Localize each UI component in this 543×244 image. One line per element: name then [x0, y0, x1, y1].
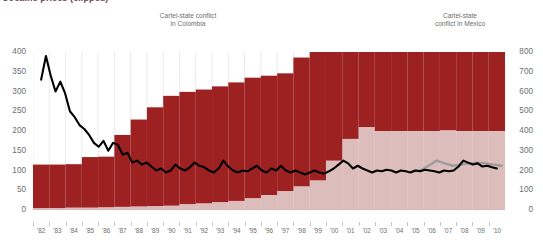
- y-axis-left-tick-label: 250: [0, 107, 26, 115]
- bar-lower-band: [228, 201, 244, 210]
- x-tick-mark: [179, 222, 180, 226]
- bar-upper-band: [391, 52, 407, 131]
- bar-lower-band: [472, 131, 488, 210]
- bar-upper-band: [472, 52, 488, 131]
- bar-lower-band: [310, 180, 326, 210]
- x-tick-mark: [131, 222, 132, 226]
- bar-upper-band: [359, 52, 375, 127]
- x-tick-mark: [66, 222, 67, 226]
- bar-upper-band: [326, 52, 342, 161]
- plot-area: [33, 52, 505, 210]
- bar-lower-band: [82, 208, 98, 210]
- bar-upper-band: [261, 76, 277, 195]
- y-axis-right-tick-label: 0: [507, 206, 533, 214]
- bar-lower-band: [163, 206, 179, 210]
- y-axis-left-tick-label: 0: [0, 206, 26, 214]
- y-axis-right-tick-label: 100: [507, 186, 533, 194]
- y-axis-left-tick-label: 300: [0, 88, 26, 96]
- bar-upper-band: [196, 90, 212, 204]
- x-tick-mark: [196, 222, 197, 226]
- x-tick-mark: [375, 222, 376, 226]
- bar-upper-band: [456, 52, 472, 131]
- x-tick-mark: [49, 222, 50, 226]
- annotation-mexico-line1: Cartel-state: [400, 12, 520, 20]
- bar-upper-band: [114, 135, 130, 207]
- x-tick-mark: [440, 222, 441, 226]
- bar-upper-band: [179, 92, 195, 204]
- x-tick-mark: [310, 222, 311, 226]
- bar-upper-band: [424, 52, 440, 131]
- bar-upper-band: [49, 165, 65, 208]
- bar-lower-band: [293, 186, 309, 210]
- y-axis-left-tick-label: 100: [0, 167, 26, 175]
- bar-lower-band: [456, 131, 472, 210]
- x-tick-mark: [293, 222, 294, 226]
- annotation-colombia: Cartel-state conflict in Colombia: [108, 12, 268, 29]
- x-tick-mark: [424, 222, 425, 226]
- x-tick-mark: [359, 222, 360, 226]
- y-axis-right-tick-label: 500: [507, 107, 533, 115]
- bar-lower-band: [196, 203, 212, 210]
- y-axis-left-tick-label: 150: [0, 147, 26, 155]
- x-tick-mark: [33, 222, 34, 226]
- bar-lower-band: [245, 198, 261, 210]
- bar-upper-band: [440, 52, 456, 130]
- y-axis-left-tick-label: 200: [0, 127, 26, 135]
- page-title: Cocaine prices (clipped): [2, 0, 108, 3]
- annotation-mexico: Cartel-state conflict in Mexico: [400, 12, 520, 29]
- bar-upper-band: [342, 52, 358, 139]
- bar-lower-band: [114, 207, 130, 210]
- y-axis-left-tick-label: 350: [0, 68, 26, 76]
- bar-upper-band: [212, 86, 228, 202]
- x-tick-mark: [456, 222, 457, 226]
- x-tick-mark: [489, 222, 490, 226]
- bar-upper-band: [407, 52, 423, 131]
- bar-upper-band: [245, 78, 261, 198]
- bar-upper-band: [310, 52, 326, 180]
- x-tick-mark: [342, 222, 343, 226]
- x-tick-mark: [114, 222, 115, 226]
- plot-svg: [33, 52, 505, 210]
- bar-lower-band: [66, 208, 82, 210]
- bar-lower-band: [179, 204, 195, 210]
- x-tick-mark: [245, 222, 246, 226]
- x-tick-mark: [163, 222, 164, 226]
- y-axis-left-tick-label: 400: [0, 48, 26, 56]
- bar-lower-band: [98, 207, 114, 210]
- x-tick-mark: [228, 222, 229, 226]
- bar-lower-band: [277, 191, 293, 210]
- y-axis-left-tick-label: 50: [0, 186, 26, 194]
- y-axis-right-tick-label: 600: [507, 88, 533, 96]
- x-axis-tick-label: '10: [487, 228, 507, 234]
- bar-upper-band: [147, 107, 163, 206]
- y-axis-right-tick-label: 400: [507, 127, 533, 135]
- bar-upper-band: [66, 164, 82, 207]
- annotation-colombia-line2: in Colombia: [108, 20, 268, 28]
- bar-upper-band: [293, 58, 309, 187]
- bar-lower-band: [489, 131, 505, 210]
- bar-upper-band: [33, 165, 49, 208]
- x-tick-mark: [472, 222, 473, 226]
- x-tick-mark: [98, 222, 99, 226]
- x-tick-mark: [82, 222, 83, 226]
- y-axis-right-tick-label: 800: [507, 48, 533, 56]
- x-tick-mark: [277, 222, 278, 226]
- x-tick-mark: [326, 222, 327, 226]
- bar-upper-band: [98, 157, 114, 208]
- y-axis-right-tick-label: 300: [507, 147, 533, 155]
- x-tick-mark: [391, 222, 392, 226]
- bar-upper-band: [82, 157, 98, 208]
- bar-lower-band: [131, 206, 147, 210]
- bar-lower-band: [342, 139, 358, 210]
- cocaine-price-chart: Cocaine prices (clipped) Cartel-state co…: [0, 0, 543, 244]
- x-tick-mark: [407, 222, 408, 226]
- chart-title-strip: Cocaine prices (clipped): [0, 0, 543, 5]
- bar-lower-band: [212, 202, 228, 210]
- x-tick-mark: [261, 222, 262, 226]
- annotation-colombia-line1: Cartel-state conflict: [108, 12, 268, 20]
- bar-lower-band: [261, 195, 277, 210]
- bar-upper-band: [228, 82, 244, 201]
- x-tick-mark: [212, 222, 213, 226]
- bar-upper-band: [489, 52, 505, 131]
- annotation-mexico-line2: conflict in Mexico: [400, 20, 520, 28]
